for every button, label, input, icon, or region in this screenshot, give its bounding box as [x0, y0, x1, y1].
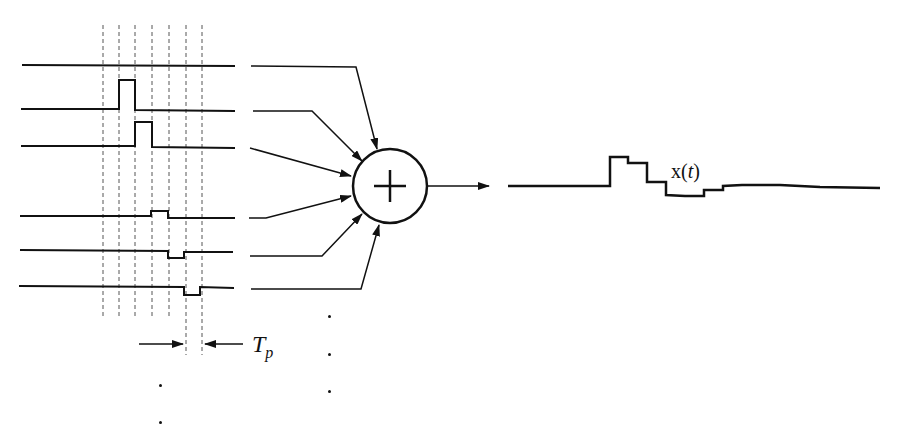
- connector-5: [250, 214, 362, 256]
- input-signal-3: [21, 122, 235, 148]
- ellipsis-dot-mid-2: [328, 353, 331, 356]
- summing-junction: [353, 149, 427, 223]
- ellipsis-dot-left-2: [159, 421, 162, 424]
- input-signal-5: [20, 250, 233, 258]
- ellipsis-dot-mid-3: [328, 390, 331, 393]
- connector-6: [251, 225, 379, 289]
- input-signal-2: [21, 80, 235, 111]
- output-label-x-of-t: x(t): [671, 160, 700, 183]
- input-signal-4: [20, 211, 235, 218]
- connector-3: [250, 148, 351, 176]
- connector-1: [251, 66, 377, 149]
- ellipsis-dot-left-1: [159, 384, 162, 387]
- input-signal-1: [22, 65, 235, 66]
- period-label-tp: Tp: [252, 331, 273, 362]
- diagram-canvas: [0, 0, 908, 428]
- ellipsis-dot-mid-1: [328, 315, 331, 318]
- connector-4: [249, 196, 351, 218]
- dashed-timing-grid: [103, 25, 202, 355]
